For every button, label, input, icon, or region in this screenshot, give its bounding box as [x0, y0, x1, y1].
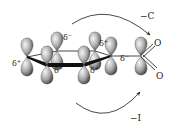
oxygen-top: O — [154, 38, 161, 48]
charge-back-right: δ⁺ — [99, 39, 108, 48]
charge-front-left: δ⁻ — [54, 66, 63, 75]
charge-left: δ⁺ — [12, 59, 21, 68]
charge-ipso: δ⁻ — [120, 54, 129, 63]
charge-back-left: δ⁻ — [63, 33, 72, 42]
orbital-diagram: O O δ⁻ δ⁺ δ⁺ δ⁻ δ⁺ δ⁻ −C −I — [0, 0, 180, 129]
inductive-label: −I — [130, 113, 142, 123]
inductive-arrow — [76, 92, 140, 113]
mesomeric-label: −C — [140, 11, 155, 21]
charge-front-right: δ⁺ — [90, 66, 99, 75]
oxygen-bottom: O — [156, 71, 163, 81]
mesomeric-arrow — [72, 14, 150, 35]
